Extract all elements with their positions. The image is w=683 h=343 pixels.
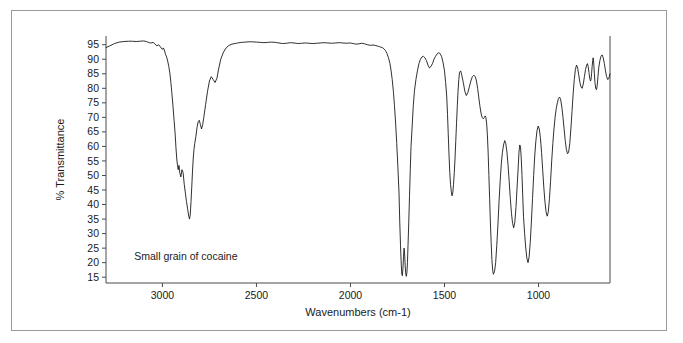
sample-annotation: Small grain of cocaine xyxy=(134,250,237,262)
y-tick-label: 50 xyxy=(87,169,99,181)
y-tick-label: 55 xyxy=(87,155,99,167)
y-tick-label: 15 xyxy=(87,271,99,283)
y-tick-label: 75 xyxy=(87,96,99,108)
ir-spectrum-figure: 9590858075706560555045403530252015300025… xyxy=(0,0,683,343)
y-tick-label: 90 xyxy=(87,53,99,65)
x-tick-label: 1000 xyxy=(527,289,551,301)
x-axis-label: Wavenumbers (cm-1) xyxy=(305,306,410,318)
y-tick-label: 70 xyxy=(87,111,99,123)
spectrum-trace xyxy=(106,41,610,276)
x-tick-label: 1500 xyxy=(433,289,457,301)
x-tick-label: 2000 xyxy=(339,289,363,301)
spectrum-svg: 9590858075706560555045403530252015300025… xyxy=(0,0,683,343)
plot-area: 9590858075706560555045403530252015300025… xyxy=(0,0,683,343)
y-tick-label: 95 xyxy=(87,38,99,50)
y-tick-label: 40 xyxy=(87,198,99,210)
y-tick-label: 35 xyxy=(87,213,99,225)
y-axis-label: % Transmittance xyxy=(54,119,66,201)
y-tick-label: 30 xyxy=(87,227,99,239)
y-tick-label: 25 xyxy=(87,242,99,254)
y-tick-label: 65 xyxy=(87,125,99,137)
x-tick-label: 3000 xyxy=(151,289,175,301)
y-tick-label: 45 xyxy=(87,184,99,196)
y-tick-label: 85 xyxy=(87,67,99,79)
y-tick-label: 20 xyxy=(87,256,99,268)
y-tick-label: 60 xyxy=(87,140,99,152)
y-tick-label: 80 xyxy=(87,82,99,94)
x-tick-label: 2500 xyxy=(245,289,269,301)
